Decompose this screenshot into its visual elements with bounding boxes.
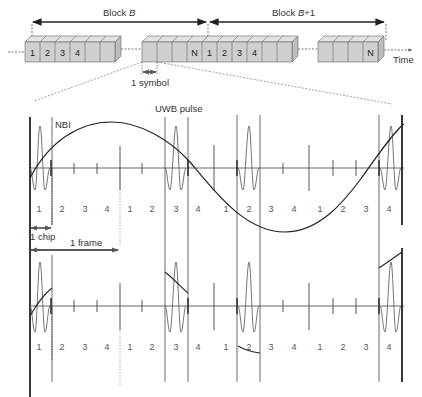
block-b1-label: Block B+1 [272,7,315,18]
uwb-pulse [380,262,401,332]
svg-text:3: 3 [363,204,368,214]
svg-text:3: 3 [173,204,178,214]
cell-label: 4 [75,48,80,58]
lower-chip-labels: 1 2 3 4 1 2 3 4 1 2 3 4 1 2 3 4 [36,342,391,352]
svg-text:4: 4 [195,342,200,352]
cell-label: N [367,48,374,58]
cell-label: 3 [237,48,242,58]
block-group-1: 1 2 3 4 [25,36,121,62]
svg-text:4: 4 [386,204,391,214]
cell-label: 2 [222,48,227,58]
svg-text:1: 1 [127,342,132,352]
cell-label: 2 [45,48,50,58]
svg-text:1: 1 [317,342,322,352]
svg-text:4: 4 [104,342,109,352]
uwb-pulse [30,262,50,332]
svg-text:2: 2 [340,342,345,352]
cell-label: N [191,48,198,58]
time-label: Time [393,54,414,65]
svg-text:4: 4 [104,204,109,214]
uwb-pulse [380,126,401,190]
svg-text:4: 4 [195,204,200,214]
uwb-pulse [238,262,259,332]
block-group-2: N 1 2 3 4 [142,36,298,62]
uwb-pulse [165,262,186,332]
block-b-label: Block B [103,7,136,18]
frame-label: 1 frame [70,237,102,248]
lower-waveform: 1 2 3 4 1 2 3 4 1 2 3 4 1 2 3 4 [30,248,404,385]
chip-label: 1 chip [30,231,55,242]
nbi-segment [165,272,188,293]
cell-label: 1 [207,48,212,58]
uwb-pulse-label: UWB pulse [155,103,203,114]
uwb-pulse [30,126,50,190]
svg-text:3: 3 [268,204,273,214]
uwb-pulse [165,126,186,190]
upper-waveform: NBI UWB pulse 1 2 3 4 1 2 3 4 1 2 3 4 1 … [30,103,404,397]
nbi-label: NBI [55,119,71,130]
svg-text:4: 4 [291,342,296,352]
svg-text:2: 2 [149,204,154,214]
svg-text:3: 3 [363,342,368,352]
svg-text:4: 4 [386,342,391,352]
cell-label: 3 [60,48,65,58]
svg-text:1: 1 [317,204,322,214]
svg-text:1: 1 [223,204,228,214]
svg-text:2: 2 [340,204,345,214]
svg-text:2: 2 [59,204,64,214]
svg-text:2: 2 [59,342,64,352]
svg-text:1: 1 [36,342,41,352]
svg-text:3: 3 [82,204,87,214]
svg-text:4: 4 [291,204,296,214]
block-timeline: Block B Block B+1 1 2 3 4 [8,7,414,104]
block-group-3: N [318,36,384,62]
svg-text:2: 2 [246,204,251,214]
cell-label: 4 [252,48,257,58]
svg-text:3: 3 [268,342,273,352]
svg-text:2: 2 [149,342,154,352]
svg-text:1: 1 [36,204,41,214]
svg-text:1: 1 [127,204,132,214]
svg-text:1: 1 [223,342,228,352]
cell-label: 1 [30,48,35,58]
svg-text:2: 2 [246,342,251,352]
uwb-pulse [238,126,259,190]
nbi-sinusoid [30,122,404,232]
svg-text:3: 3 [173,342,178,352]
symbol-label: 1 symbol [131,77,169,88]
uwb-nbi-diagram: Block B Block B+1 1 2 3 4 [0,0,422,397]
svg-text:3: 3 [82,342,87,352]
